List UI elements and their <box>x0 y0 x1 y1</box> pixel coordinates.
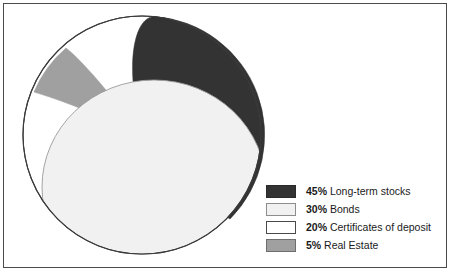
legend-item[interactable]: 30% Bonds <box>266 200 446 218</box>
legend-label: Long-term stocks <box>330 185 411 197</box>
legend-label: Real Estate <box>324 239 378 251</box>
pie-chart-graphic <box>4 4 274 269</box>
legend-text: 20% Certificates of deposit <box>306 221 431 234</box>
chart-frame: 45% Long-term stocks 30% Bonds 20% Certi… <box>3 3 447 268</box>
legend-item[interactable]: 5% Real Estate <box>266 236 446 254</box>
legend-percent: 45% <box>306 185 327 197</box>
chart-legend: 45% Long-term stocks 30% Bonds 20% Certi… <box>266 182 446 254</box>
legend-swatch-long-term-stocks <box>266 185 296 198</box>
legend-swatch-real-estate <box>266 239 296 252</box>
legend-percent: 5% <box>306 239 321 251</box>
legend-percent: 20% <box>306 221 327 233</box>
legend-text: 45% Long-term stocks <box>306 185 410 198</box>
legend-text: 30% Bonds <box>306 203 360 216</box>
legend-percent: 30% <box>306 203 327 215</box>
legend-item[interactable]: 20% Certificates of deposit <box>266 218 446 236</box>
legend-text: 5% Real Estate <box>306 239 378 252</box>
pie-svg <box>4 4 274 269</box>
pie-chart-screenshot: 45% Long-term stocks 30% Bonds 20% Certi… <box>0 0 450 274</box>
legend-item[interactable]: 45% Long-term stocks <box>266 182 446 200</box>
legend-label: Certificates of deposit <box>330 221 431 233</box>
legend-swatch-bonds <box>266 203 296 216</box>
legend-label: Bonds <box>330 203 360 215</box>
legend-swatch-certificates-of-deposit <box>266 221 296 234</box>
